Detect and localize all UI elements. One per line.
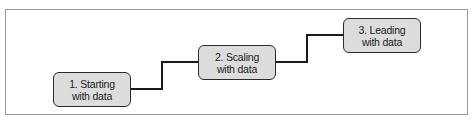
step-2-line-1: 2. Scaling [215, 51, 259, 63]
step-2-scaling-with-data: 2. Scaling with data [198, 45, 276, 80]
connector-2-to-3 [276, 35, 343, 62]
step-2-line-2: with data [217, 63, 257, 75]
step-3-leading-with-data: 3. Leading with data [343, 18, 421, 53]
step-1-line-2: with data [72, 90, 112, 102]
connector-1-to-2 [130, 62, 198, 89]
step-3-line-2: with data [362, 36, 402, 48]
step-1-line-1: 1. Starting [69, 78, 115, 90]
step-3-line-1: 3. Leading [358, 24, 405, 36]
step-1-starting-with-data: 1. Starting with data [53, 72, 131, 107]
